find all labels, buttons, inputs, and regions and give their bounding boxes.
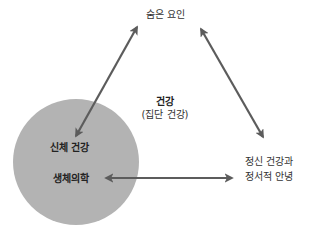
mental-health-label: 정신 건강과 정서적 안녕 <box>245 155 293 183</box>
center-health-label: 건강 (집단 건강) <box>135 95 195 121</box>
diagram-canvas <box>0 0 313 245</box>
mental-health-line1: 정신 건강과 <box>245 155 293 168</box>
biomedicine-label: 생체의학 <box>53 172 89 185</box>
physical-health-label: 신체 건강 <box>50 141 89 154</box>
physical-health-circle <box>13 99 139 225</box>
mental-health-line2: 정서적 안녕 <box>245 170 293 183</box>
health-title: 건강 <box>135 95 195 108</box>
arrow-hidden-mental <box>201 29 263 137</box>
hidden-factors-label: 숨은 요인 <box>146 8 185 21</box>
health-subtitle: (집단 건강) <box>135 108 195 121</box>
